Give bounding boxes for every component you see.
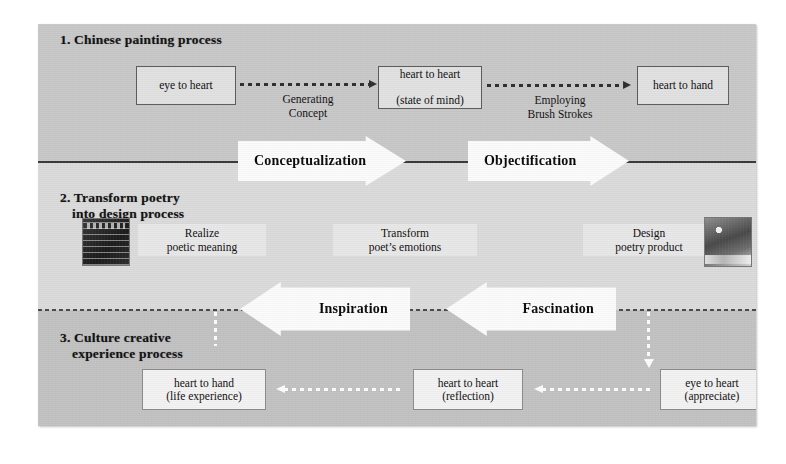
eye-to-heart-appreciate-line2: (appreciate)	[685, 390, 740, 402]
connector-appreciate-to-reflection	[542, 388, 652, 391]
drop-connector-left	[214, 312, 217, 346]
section-title-3: 3. Culture creative experience process	[60, 330, 183, 362]
heart-to-heart-reflection-line2: (reflection)	[442, 390, 494, 402]
generating-concept-line1: Generating	[282, 93, 333, 105]
arrow-conceptualization-label: Conceptualization	[254, 153, 366, 169]
poem-thumbnail	[82, 218, 130, 266]
section-title-1: 1. Chinese painting process	[60, 32, 222, 48]
arrow-objectification-label: Objectification	[484, 153, 576, 169]
node-heart-to-heart-label: heart to heart (state of mind)	[396, 68, 464, 107]
node-heart-to-heart: heart to heart (state of mind)	[378, 66, 482, 109]
node-eye-to-heart-label: eye to heart	[159, 79, 213, 92]
design-line2: poetry product	[615, 241, 682, 253]
connector-employing-brush-strokes-label: Employing Brush Strokes	[504, 93, 616, 121]
employing-brush-line2: Brush Strokes	[528, 108, 593, 120]
realize-line1: Realize	[185, 227, 219, 239]
arrow-inspiration-label: Inspiration	[319, 301, 388, 317]
arrow-head-right-icon	[623, 81, 631, 89]
label-transform-poets-emotions: Transform poet’s emotions	[333, 224, 477, 256]
label-design-poetry-product: Design poetry product	[583, 224, 715, 256]
design-line1: Design	[633, 227, 666, 239]
poetry-product-thumbnail	[704, 217, 752, 267]
heart-to-hand-life-line1: heart to hand	[174, 377, 234, 389]
transform-line1: Transform	[381, 227, 429, 239]
heart-to-heart-line1: heart to heart	[396, 68, 464, 81]
arrow-head-left-icon	[534, 385, 543, 393]
transform-line2: poet’s emotions	[369, 241, 442, 253]
employing-brush-line1: Employing	[534, 94, 585, 106]
realize-line2: poetic meaning	[167, 241, 238, 253]
connector-generating-concept-arrow	[240, 83, 370, 86]
connector-employing-brush-strokes-arrow	[487, 84, 624, 87]
connector-reflection-to-life	[284, 388, 402, 391]
node-heart-to-hand-label: heart to hand	[653, 79, 713, 92]
heart-to-heart-reflection-line1: heart to heart	[438, 377, 499, 389]
label-realize-poetic-meaning: Realize poetic meaning	[138, 224, 266, 256]
eye-to-heart-appreciate-line1: eye to heart	[685, 377, 739, 389]
node-eye-to-heart-appreciate: eye to heart (appreciate)	[660, 369, 756, 410]
node-heart-to-hand-life-experience: heart to hand (life experience)	[142, 369, 266, 410]
drop-connector-right	[647, 312, 650, 360]
process-diagram-figure: 1. Chinese painting process eye to heart…	[38, 24, 756, 426]
node-heart-to-hand: heart to hand	[637, 66, 729, 105]
heart-to-hand-life-line2: (life experience)	[166, 390, 242, 402]
arrow-fascination-label: Fascination	[523, 301, 594, 317]
connector-generating-concept-label: Generating Concept	[260, 92, 356, 120]
section-3-line2: experience process	[60, 346, 183, 362]
arrow-head-left-icon	[276, 385, 285, 393]
node-eye-to-heart: eye to heart	[136, 66, 236, 105]
arrow-head-down-icon	[644, 359, 654, 368]
node-heart-to-heart-reflection: heart to heart (reflection)	[413, 369, 523, 410]
section-2-line1: 2. Transform poetry	[60, 190, 180, 205]
arrow-head-right-icon	[369, 80, 377, 88]
heart-to-heart-line2: (state of mind)	[396, 94, 464, 107]
generating-concept-line2: Concept	[289, 107, 327, 119]
section-3-line1: 3. Culture creative	[60, 330, 171, 345]
